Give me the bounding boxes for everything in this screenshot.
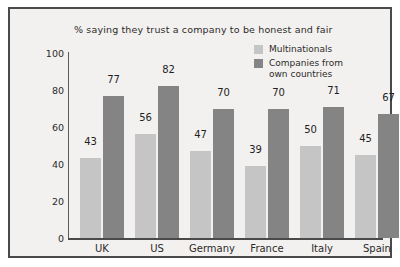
bar-germany-multinationals (190, 151, 211, 238)
y-tick-100: 100 (34, 48, 64, 59)
bar-value-label: 50 (296, 124, 326, 135)
bar-spain-multinationals (355, 155, 376, 238)
y-tick-60: 60 (34, 122, 64, 133)
bar-value-label: 43 (76, 136, 106, 147)
bar-value-label: 67 (374, 92, 400, 103)
bar-value-label: 71 (319, 85, 349, 96)
chart-figure: % saying they trust a company to be hone… (0, 0, 400, 267)
y-tick-40: 40 (34, 159, 64, 170)
bar-france-multinationals (245, 166, 266, 238)
bar-us-own-countries (158, 86, 179, 238)
bar-italy-own-countries (323, 107, 344, 238)
y-tick-20: 20 (34, 196, 64, 207)
bar-value-label: 70 (209, 87, 239, 98)
x-tick-spain: Spain (337, 243, 400, 254)
chart-title: % saying they trust a company to be hone… (74, 24, 332, 35)
bar-group-italy: 5071 (300, 53, 344, 238)
bar-group-us: 5682 (135, 53, 179, 238)
bar-germany-own-countries (213, 109, 234, 239)
bar-us-multinationals (135, 134, 156, 238)
bar-uk-multinationals (80, 158, 101, 238)
bar-group-france: 3970 (245, 53, 289, 238)
bar-value-label: 82 (154, 64, 184, 75)
bar-uk-own-countries (103, 96, 124, 238)
bar-france-own-countries (268, 109, 289, 239)
y-axis-tick-labels: 020406080100 (30, 9, 64, 267)
y-tick-0: 0 (34, 233, 64, 244)
bar-group-uk: 4377 (80, 53, 124, 238)
bar-value-label: 39 (241, 144, 271, 155)
bar-italy-multinationals (300, 146, 321, 239)
chart-frame: % saying they trust a company to be hone… (8, 7, 392, 258)
bar-value-label: 77 (99, 74, 129, 85)
bar-group-germany: 4770 (190, 53, 234, 238)
bar-value-label: 56 (131, 112, 161, 123)
y-tick-80: 80 (34, 85, 64, 96)
bar-spain-own-countries (378, 114, 399, 238)
plot-area: 437756824770397050714567 (68, 53, 394, 238)
x-axis-line (68, 238, 383, 240)
bar-value-label: 70 (264, 87, 294, 98)
bar-value-label: 45 (351, 133, 381, 144)
bar-group-spain: 4567 (355, 53, 399, 238)
bar-value-label: 47 (186, 129, 216, 140)
